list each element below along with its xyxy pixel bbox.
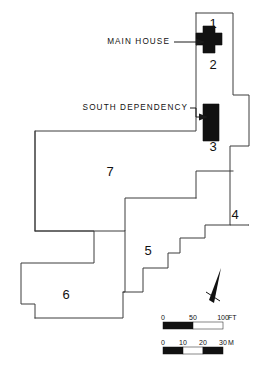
parcel-boundary-parcel-5-left	[35, 231, 125, 318]
scale-tick-30: 30	[219, 339, 227, 346]
callout-label-south-dependency: SOUTH DEPENDENCY	[83, 103, 188, 112]
parcel-boundary-parcel-4-edge	[196, 171, 233, 198]
scale-tick-10: 10	[179, 339, 187, 346]
scale-segment-2	[203, 347, 223, 354]
scale-tick-50: 50	[189, 314, 197, 321]
callout-annotations: MAIN HOUSESOUTH DEPENDENCY	[83, 37, 208, 120]
scale-tick-20: 20	[199, 339, 207, 346]
callout-leader-south-dependency	[190, 108, 199, 117]
scale-tick-0: 0	[161, 339, 165, 346]
zone-label-zone-5: 5	[144, 243, 151, 258]
zone-label-zone-3: 3	[209, 139, 216, 154]
callout-label-main-house: MAIN HOUSE	[107, 37, 170, 46]
scale-segment-0	[163, 347, 183, 354]
scale-unit-FT: FT	[228, 314, 237, 321]
site-plan-figure: MAIN HOUSESOUTH DEPENDENCY 1234567 05010…	[0, 0, 260, 368]
north-arrow	[206, 268, 221, 303]
scale-bars: 050100FT0102030M	[161, 314, 237, 354]
zone-number-labels: 1234567	[62, 16, 238, 302]
zone-label-zone-7: 7	[106, 164, 113, 179]
scale-bar-scale-feet: 050100FT	[161, 314, 237, 329]
parcel-boundary-parcel-mid	[123, 225, 230, 292]
parcel-boundary-parcel-6	[21, 231, 94, 318]
scale-segment-1	[193, 322, 223, 329]
scale-tick-0: 0	[161, 314, 165, 321]
zone-label-zone-6: 6	[62, 287, 69, 302]
scale-segment-1	[183, 347, 203, 354]
zone-label-zone-1: 1	[209, 16, 216, 31]
building-south-dependency	[203, 104, 219, 141]
scale-segment-0	[163, 322, 193, 329]
scale-bar-scale-meters: 0102030M	[161, 339, 234, 354]
zone-label-zone-2: 2	[209, 57, 216, 72]
site-plan-canvas: MAIN HOUSESOUTH DEPENDENCY 1234567 05010…	[0, 0, 260, 368]
scale-unit-M: M	[228, 339, 234, 346]
zone-label-zone-4: 4	[231, 207, 238, 222]
